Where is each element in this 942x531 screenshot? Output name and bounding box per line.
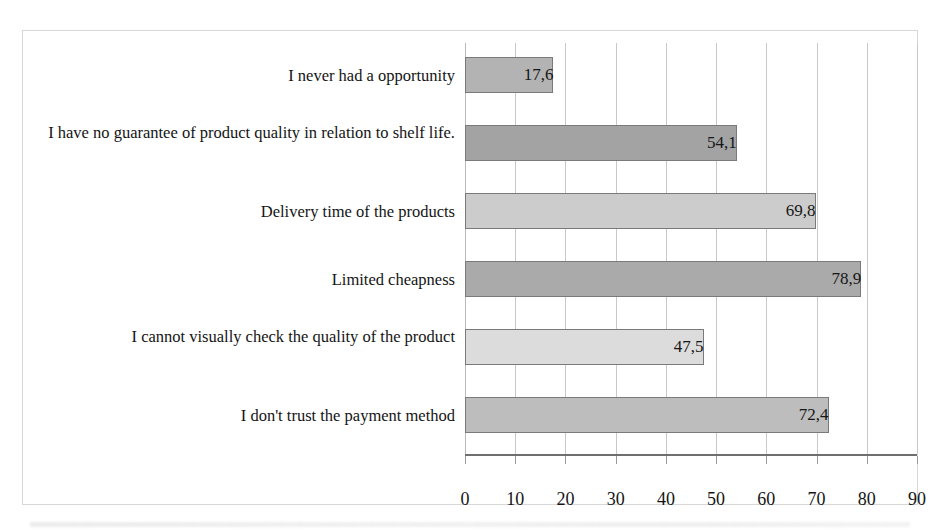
chart-frame: 17,654,169,878,947,572,4 I never had a o… xyxy=(22,30,918,505)
x-tick-label-70: 70 xyxy=(797,489,837,510)
bar-value-label: 17,6 xyxy=(465,57,562,93)
x-tick-label-60: 60 xyxy=(746,489,786,510)
category-label: I never had a opportunity xyxy=(23,65,455,86)
x-tick-label-80: 80 xyxy=(847,489,887,510)
x-tick-label-0: 0 xyxy=(445,489,485,510)
gridline-50 xyxy=(716,43,717,454)
tick-mark-20 xyxy=(565,456,566,464)
category-label: Delivery time of the products xyxy=(23,201,455,222)
gridline-40 xyxy=(666,43,667,454)
tick-mark-30 xyxy=(616,456,617,464)
bar-row: 78,9 xyxy=(465,261,917,297)
category-label: I don't trust the payment method xyxy=(23,405,455,426)
gridline-0 xyxy=(465,43,466,454)
bar-row: 17,6 xyxy=(465,57,917,93)
x-tick-label-20: 20 xyxy=(545,489,585,510)
tick-mark-90 xyxy=(917,456,918,464)
tick-mark-80 xyxy=(867,456,868,464)
tick-mark-70 xyxy=(817,456,818,464)
tick-mark-50 xyxy=(716,456,717,464)
tick-mark-0 xyxy=(465,456,466,464)
bar-row: 69,8 xyxy=(465,193,917,229)
x-axis-line xyxy=(465,454,917,456)
bar-row: 72,4 xyxy=(465,397,917,433)
bar-value-label: 54,1 xyxy=(465,125,746,161)
bar-value-label: 47,5 xyxy=(465,329,713,365)
category-label: Limited cheapness xyxy=(23,269,455,290)
bar-value-label: 72,4 xyxy=(465,397,838,433)
gridline-20 xyxy=(565,43,566,454)
tick-mark-60 xyxy=(766,456,767,464)
bar-value-label: 69,8 xyxy=(465,193,825,229)
x-tick-label-30: 30 xyxy=(596,489,636,510)
plot-area: 17,654,169,878,947,572,4 xyxy=(465,43,917,454)
gridline-90 xyxy=(917,43,918,454)
tick-mark-40 xyxy=(666,456,667,464)
bar-value-label: 78,9 xyxy=(465,261,870,297)
x-tick-label-40: 40 xyxy=(646,489,686,510)
category-label: I cannot visually check the quality of t… xyxy=(23,326,455,347)
gridline-80 xyxy=(867,43,868,454)
bar-row: 47,5 xyxy=(465,329,917,365)
x-tick-label-90: 90 xyxy=(897,489,937,510)
gridline-70 xyxy=(817,43,818,454)
gridline-10 xyxy=(515,43,516,454)
bar-row: 54,1 xyxy=(465,125,917,161)
tick-mark-10 xyxy=(515,456,516,464)
x-tick-label-10: 10 xyxy=(495,489,535,510)
scan-artifact xyxy=(30,522,910,527)
gridline-60 xyxy=(766,43,767,454)
gridline-30 xyxy=(616,43,617,454)
x-tick-label-50: 50 xyxy=(696,489,736,510)
category-label: I have no guarantee of product quality i… xyxy=(23,122,455,143)
